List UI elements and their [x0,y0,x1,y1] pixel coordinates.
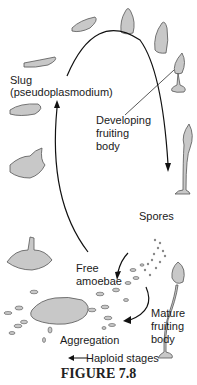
label-developing-1: Developing [96,114,151,127]
label-mature-1: Mature [151,307,185,320]
slug-shape-1 [72,17,96,32]
arrow-spores [118,253,128,272]
aggregation-mass [31,297,89,324]
label-mature-3: body [151,333,175,346]
slug-shape-4 [24,57,56,67]
slug-shape-3 [155,22,168,53]
label-free-2: amoebae [76,275,122,288]
aggregate-shape [7,237,52,270]
arrow-aggregation [130,287,149,320]
label-spores: Spores [139,210,174,223]
legend-haploid: Haploid stages [86,352,159,365]
label-mature-2: fruiting [151,320,184,333]
slug-shape-2 [121,9,134,34]
label-developing-3: body [96,140,120,153]
slug-shape-5 [10,104,41,116]
cycle-arc-left [55,108,88,252]
leader-line [125,70,174,115]
label-aggregation: Aggregation [60,334,119,347]
culmination-shape [10,148,45,178]
label-slug-sub: (pseudoplasmodium) [10,86,113,99]
label-free-1: Free [76,262,99,275]
figure-caption: FIGURE 7.8 [0,366,197,382]
label-developing-2: fruiting [96,127,129,140]
